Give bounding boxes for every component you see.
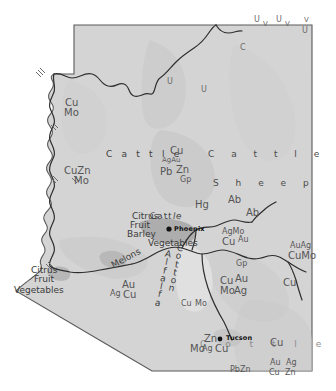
phoenix-dot [166,226,171,231]
tucson-dot [218,337,223,342]
map-base-svg [0,0,336,391]
arizona-resource-map: U V U V V U C U U C a t t l e S h e e p … [0,0,336,391]
